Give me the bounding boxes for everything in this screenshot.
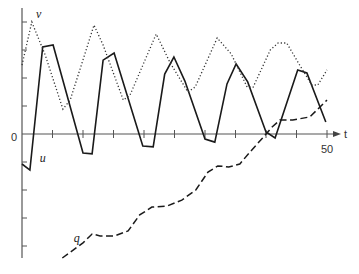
- x-axis-arrow-icon: [333, 131, 341, 137]
- series-label-u: u: [40, 151, 46, 165]
- series-line-q: [62, 100, 327, 258]
- origin-label: 0: [11, 131, 17, 143]
- series-label-q: q: [74, 231, 80, 245]
- chart: t 0 50 uvq: [0, 0, 359, 274]
- x-axis-label: t: [344, 128, 347, 140]
- series-label-v: v: [36, 7, 42, 21]
- x-tick-label: 50: [321, 143, 333, 155]
- series-line-u: [22, 45, 326, 170]
- series: [22, 22, 327, 258]
- series-labels: uvq: [36, 7, 80, 245]
